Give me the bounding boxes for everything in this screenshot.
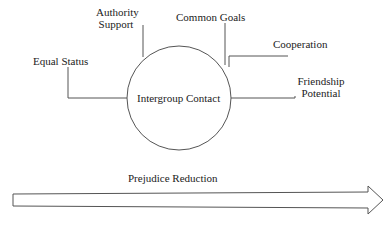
friendship-potential-label: Friendship Potential (296, 75, 346, 99)
diagram-canvas (0, 0, 385, 226)
friendship-line2: Potential (296, 87, 346, 99)
authority-support-line1: Authority (96, 6, 136, 18)
friendship-line1: Friendship (296, 75, 346, 87)
cooperation-connector (229, 56, 288, 67)
cooperation-label: Cooperation (273, 38, 327, 50)
authority-support-label: Authority Support (96, 6, 136, 30)
common-goals-label: Common Goals (176, 11, 245, 23)
center-label: Intergroup Contact (137, 92, 220, 104)
authority-support-line2: Support (96, 18, 136, 30)
equal-status-label: Equal Status (33, 55, 88, 67)
arrow-label: Prejudice Reduction (128, 172, 218, 184)
equal-status-connector (68, 67, 127, 98)
prejudice-reduction-arrow (13, 186, 383, 214)
friendship-potential-connector (231, 96, 295, 98)
